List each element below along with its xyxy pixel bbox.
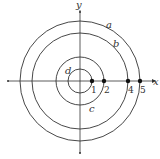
point-1-label: 1: [91, 85, 97, 95]
circle-b-label: b: [113, 38, 119, 49]
point-4: [126, 79, 130, 83]
point-2: [102, 79, 106, 83]
point-5: [138, 79, 142, 83]
circle-c-label: c: [89, 103, 95, 114]
concentric-circles-diagram: y x a b c d 1 2 4 5: [0, 0, 160, 159]
y-axis-label: y: [75, 0, 82, 10]
y-axis-top-end: [79, 11, 81, 13]
x-axis-left-end: [7, 80, 9, 82]
point-5-label: 5: [140, 85, 146, 95]
point-2-label: 2: [104, 85, 110, 95]
x-axis-label: x: [153, 76, 159, 87]
point-4-label: 4: [128, 85, 134, 95]
circle-a-label: a: [106, 19, 112, 30]
point-1: [90, 79, 94, 83]
circle-d-label: d: [65, 65, 71, 76]
y-axis-bottom-end: [79, 152, 81, 154]
